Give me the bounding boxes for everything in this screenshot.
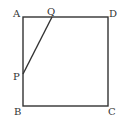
label-d: D	[109, 8, 117, 19]
label-b: B	[14, 106, 21, 117]
label-c: C	[108, 106, 116, 117]
segment-pq	[23, 17, 52, 74]
label-p: P	[13, 71, 20, 82]
label-a: A	[12, 8, 21, 19]
label-q: Q	[47, 6, 55, 17]
square-abcd	[23, 17, 108, 106]
square-diagram: A Q D P B C	[0, 0, 120, 118]
